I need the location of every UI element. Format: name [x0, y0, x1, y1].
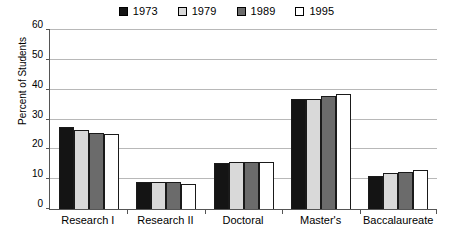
- bar-1995: [181, 184, 196, 209]
- legend-item-1973: 1973: [119, 6, 158, 17]
- bar-group: [360, 30, 437, 209]
- x-axis-label: Master's: [282, 214, 360, 226]
- bar-1995: [104, 134, 119, 209]
- legend-label-1989: 1989: [251, 6, 276, 17]
- bar-1995: [336, 94, 351, 209]
- bar-group: [282, 30, 359, 209]
- legend-label-1979: 1979: [192, 6, 217, 17]
- y-tick-label-10: 10: [32, 169, 43, 179]
- bar-1989: [89, 133, 104, 209]
- y-tick-label-0: 0: [37, 199, 43, 209]
- legend-item-1979: 1979: [178, 6, 217, 17]
- x-axis-label: Research I: [49, 214, 127, 226]
- bar-1973: [214, 163, 229, 209]
- bar-chart-figure: 1973 1979 1989 1995 Percent of Students …: [0, 0, 453, 248]
- y-tick-label-50: 50: [32, 50, 43, 60]
- bar-1973: [59, 127, 74, 209]
- legend-label-1995: 1995: [309, 6, 334, 17]
- bar-1973: [291, 99, 306, 209]
- legend-item-1989: 1989: [237, 6, 276, 17]
- y-tick-label-60: 60: [32, 20, 43, 30]
- bar-1979: [74, 130, 89, 209]
- plot-area: 0102030405060: [49, 30, 437, 210]
- x-axis-label: Doctoral: [204, 214, 282, 226]
- bar-1989: [398, 172, 413, 209]
- y-tick-label-40: 40: [32, 80, 43, 90]
- legend-item-1995: 1995: [295, 6, 334, 17]
- y-tick-label-30: 30: [32, 110, 43, 120]
- y-axis-title: Percent of Students: [18, 11, 28, 151]
- bar-1995: [259, 162, 274, 209]
- legend-swatch-1989: [237, 7, 246, 16]
- x-axis-label: Baccalaureate: [359, 214, 437, 226]
- bar-1979: [151, 182, 166, 209]
- bar-1979: [306, 99, 321, 209]
- bar-group: [50, 30, 127, 209]
- y-tick-label-20: 20: [32, 139, 43, 149]
- chart-legend: 1973 1979 1989 1995: [0, 6, 453, 17]
- bar-group: [127, 30, 204, 209]
- legend-label-1973: 1973: [133, 6, 158, 17]
- bar-1979: [383, 173, 398, 209]
- bar-1973: [136, 182, 151, 209]
- bar-1989: [166, 182, 181, 209]
- bar-1989: [244, 162, 259, 209]
- bar-1989: [321, 96, 336, 209]
- legend-swatch-1995: [295, 7, 304, 16]
- bar-1973: [368, 176, 383, 209]
- x-axis-labels: Research IResearch IIDoctoralMaster'sBac…: [49, 214, 437, 226]
- bar-1979: [229, 162, 244, 209]
- bar-group: [205, 30, 282, 209]
- x-axis-label: Research II: [127, 214, 205, 226]
- legend-swatch-1973: [119, 7, 128, 16]
- bars-layer: [50, 30, 437, 209]
- legend-swatch-1979: [178, 7, 187, 16]
- bar-1995: [413, 170, 428, 209]
